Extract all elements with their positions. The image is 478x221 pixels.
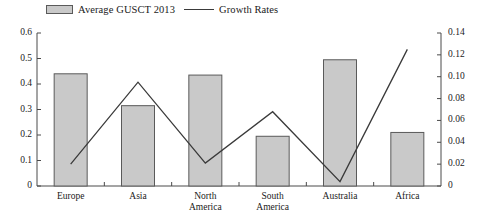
right-axis-tick-0.08: 0.08 <box>448 94 478 104</box>
right-axis-tick-0.04: 0.04 <box>448 137 478 147</box>
left-axis-tick-0.3: 0.3 <box>0 105 32 115</box>
bar-north-america <box>189 75 222 186</box>
chart-bars <box>54 60 424 186</box>
chart-axes <box>37 33 441 186</box>
left-axis-tick-0.4: 0.4 <box>0 79 32 89</box>
category-label-europe: Europe <box>33 191 109 202</box>
right-axis-tick-0.14: 0.14 <box>448 28 478 38</box>
bar-europe <box>54 74 87 186</box>
bar-south-america <box>256 136 289 186</box>
bar-asia <box>122 106 155 186</box>
category-label-north-america: North America <box>167 191 243 213</box>
left-axis-tick-0: 0 <box>0 181 32 191</box>
category-label-south-america: South America <box>235 191 311 213</box>
bar-australia <box>324 60 357 186</box>
right-axis-tick-0.02: 0.02 <box>448 159 478 169</box>
left-axis-tick-0.5: 0.5 <box>0 54 32 64</box>
chart-container: Average GUSCT 2013 Growth Rates 00.10.20… <box>0 0 478 221</box>
left-axis-tick-0.2: 0.2 <box>0 130 32 140</box>
category-label-australia: Australia <box>302 191 378 202</box>
right-axis-tick-0.06: 0.06 <box>448 115 478 125</box>
category-label-asia: Asia <box>100 191 176 202</box>
right-axis-tick-0.12: 0.12 <box>448 50 478 60</box>
left-axis-tick-0.6: 0.6 <box>0 28 32 38</box>
bar-africa <box>391 132 424 186</box>
chart-plot-area <box>0 0 478 221</box>
left-axis-tick-0.1: 0.1 <box>0 156 32 166</box>
category-label-africa: Africa <box>369 191 445 202</box>
right-axis-tick-0: 0 <box>448 181 478 191</box>
right-axis-tick-0.10: 0.10 <box>448 72 478 82</box>
